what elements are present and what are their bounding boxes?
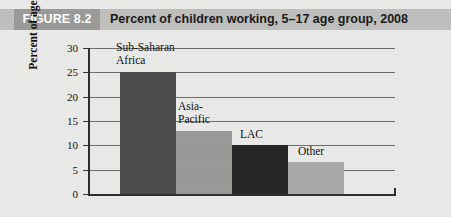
y-axis-tick-label: 25 [52,67,78,78]
bar-category-label: LAC [240,128,263,141]
bar [288,162,344,194]
figure-container: FIGURE 8.2 Percent of children working, … [0,0,451,217]
bar [232,145,288,194]
chart-plot-area: Percent of age group 5–17 051015202530 S… [0,30,451,217]
bar-category-label: Sub-Saharan Africa [116,41,175,67]
y-axis-tick-label: 15 [52,116,78,127]
y-axis-title: Percent of age group 5–17 [26,0,40,76]
bar [176,131,232,194]
y-axis-tick-label: 0 [52,189,78,200]
bar-category-label: Other [298,145,324,158]
y-axis-tick-label: 5 [52,165,78,176]
y-axis-tick-label: 10 [52,140,78,151]
x-axis-end-tick [394,188,396,196]
bar [120,72,176,194]
figure-title: Percent of children working, 5–17 age gr… [110,9,408,30]
y-axis-tick-label: 30 [52,43,78,54]
bar-category-label: Asia- Pacific [178,100,210,126]
x-axis-line [88,194,396,196]
y-axis-tick-label: 20 [52,92,78,103]
y-axis-line [88,48,90,195]
